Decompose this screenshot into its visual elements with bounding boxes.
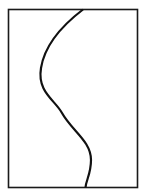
figure-canvas [0,0,146,196]
figure-svg [0,0,146,196]
rectangular-border [9,10,138,188]
